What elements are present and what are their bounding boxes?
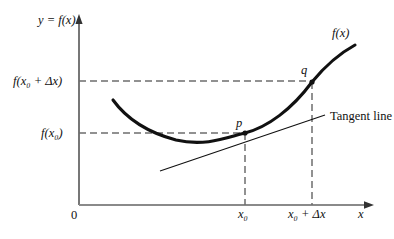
- curve-label-fx: f(x): [332, 27, 349, 40]
- point-p-label: p: [236, 117, 242, 130]
- y-axis-label: y = f(x): [38, 14, 76, 27]
- x-axis-label: x: [358, 208, 364, 221]
- x-axis: [79, 201, 374, 209]
- point-q-marker: [309, 79, 314, 84]
- y-tick-label-fx0dx: f(x₀ + Δx): [13, 75, 62, 88]
- derivative-diagram-figure: y = f(x) f(x₀ + Δx) f(x₀) 0 x₀ x₀ + Δx x…: [0, 0, 394, 239]
- origin-label: 0: [71, 209, 77, 222]
- y-axis: [75, 14, 82, 205]
- point-q-label: q: [301, 64, 307, 77]
- function-curve: [113, 45, 355, 142]
- tangent-line-label: Tangent line: [330, 110, 392, 123]
- x-tick-label-x0: x₀: [238, 208, 248, 221]
- x-tick-label-x0dx: x₀ + Δx: [288, 208, 325, 221]
- point-p-marker: [242, 130, 247, 135]
- y-tick-label-fx0: f(x₀): [41, 127, 63, 140]
